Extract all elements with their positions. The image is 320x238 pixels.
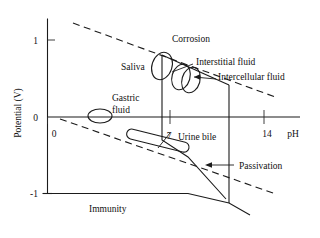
intercellular-fluid-marker xyxy=(179,65,203,95)
y-axis-title: Potential (V) xyxy=(13,88,24,137)
y-tick-label-0: 0 xyxy=(33,113,38,123)
region-label-immunity: Immunity xyxy=(89,204,127,214)
intercellular-fluid-arrowhead xyxy=(194,74,200,79)
fluid-label-intercellular-fluid: Intercellular fluid xyxy=(218,72,285,82)
x-axis-title: pH xyxy=(287,129,299,139)
fluid-label-saliva: Saliva xyxy=(121,62,146,72)
fluid-label-gastric-fluid-line2: fluid xyxy=(112,105,130,115)
y-tick-label-1: 1 xyxy=(33,36,38,46)
x-tick-label-0: 0 xyxy=(52,129,57,139)
gastric-fluid-marker xyxy=(88,109,112,123)
y-tick-label-neg1: -1 xyxy=(30,189,38,199)
tick-marks xyxy=(48,40,265,124)
fluid-label-interstitial-fluid: Interstitial fluid xyxy=(196,57,256,67)
region-label-passivation: Passivation xyxy=(239,161,283,171)
passivation-arrowhead xyxy=(205,162,212,167)
fluid-label-gastric-fluid-line1: Gastric xyxy=(112,93,139,103)
pourbaix-chart-canvas: 1 0 -1 0 7 14 Potential (V) pH xyxy=(0,0,320,238)
x-tick-label-14: 14 xyxy=(262,129,272,139)
fluid-label-urine-bile: Urine bile xyxy=(178,132,216,142)
pourbaix-diagram-figure: 1 0 -1 0 7 14 Potential (V) pH xyxy=(0,0,320,238)
immunity-upper-boundary xyxy=(48,194,251,216)
region-label-corrosion: Corrosion xyxy=(172,34,210,44)
